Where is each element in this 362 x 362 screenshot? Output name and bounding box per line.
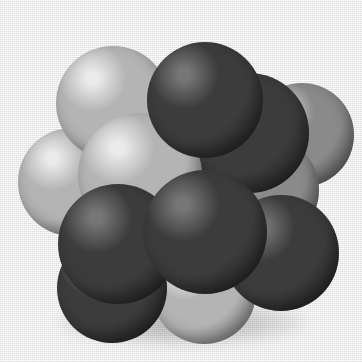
dark-atom-top-center	[147, 42, 263, 158]
molecular-model-figure: Space-filling molecular model CPK sphere…	[0, 0, 362, 362]
render-canvas	[0, 0, 362, 362]
dark-atom-center-lower	[143, 170, 267, 294]
